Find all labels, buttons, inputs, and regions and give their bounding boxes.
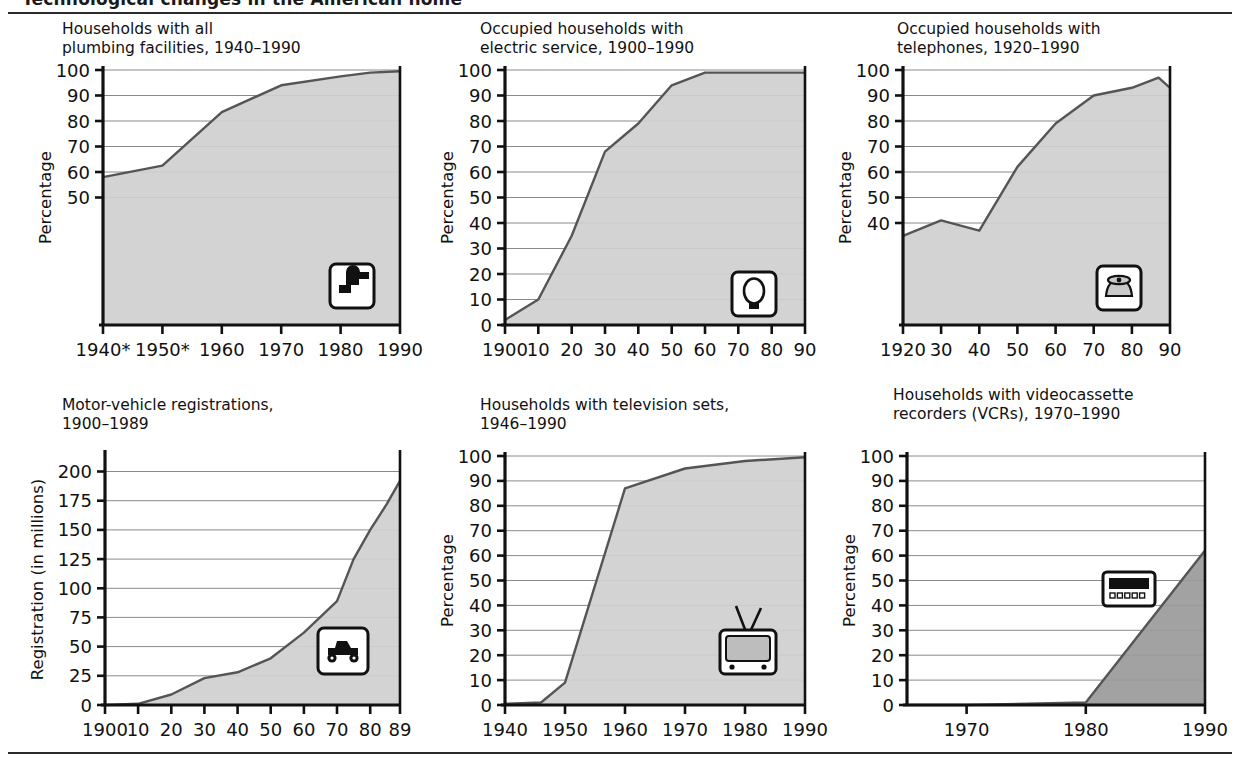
x-tick-label: 1970 [662, 719, 708, 740]
chart-panel-vcr: Households with videocassette recorders … [835, 382, 1240, 752]
x-tick-label: 1970 [944, 719, 990, 740]
x-tick-label: 80 [359, 719, 382, 740]
y-tick-label: 50 [867, 187, 890, 208]
x-tick-label: 40 [968, 339, 991, 360]
y-tick-label: 175 [58, 490, 92, 511]
x-tick-label: 30 [594, 339, 617, 360]
x-tick-label: 40 [627, 339, 650, 360]
y-axis-title: Percentage [438, 151, 457, 244]
x-tick-label: 30 [193, 719, 216, 740]
x-tick-label: 20 [560, 339, 583, 360]
x-tick-label: 70 [727, 339, 750, 360]
x-tick-label: 40 [226, 719, 249, 740]
x-tick-label: 30 [930, 339, 953, 360]
y-tick-label: 70 [67, 136, 90, 157]
y-tick-label: 80 [469, 111, 492, 132]
x-tick-label: 10 [127, 719, 150, 740]
figure-page: Technological changes in the American ho… [0, 0, 1240, 773]
chart-svg-plumbing: 50607080901001940*1950*1960197019801990P… [0, 14, 420, 382]
chart-panel-electric: Occupied households with electric servic… [420, 14, 835, 382]
y-tick-label: 90 [469, 470, 492, 491]
y-tick-label: 40 [867, 213, 890, 234]
y-tick-label: 80 [67, 111, 90, 132]
x-tick-label: 1970 [258, 339, 304, 360]
y-tick-label: 30 [469, 238, 492, 259]
y-tick-label: 70 [867, 136, 890, 157]
x-tick-label: 20 [160, 719, 183, 740]
telephone-icon [1097, 266, 1141, 310]
y-tick-label: 100 [458, 60, 492, 81]
y-tick-label: 10 [469, 670, 492, 691]
x-tick-label: 10 [527, 339, 550, 360]
y-tick-label: 60 [469, 162, 492, 183]
y-tick-label: 60 [67, 162, 90, 183]
y-tick-label: 50 [69, 636, 92, 657]
y-tick-label: 60 [469, 545, 492, 566]
y-tick-label: 80 [469, 495, 492, 516]
x-tick-label: 90 [1159, 339, 1182, 360]
x-tick-label: 1900 [482, 339, 528, 360]
x-tick-label: 1920 [880, 339, 926, 360]
x-tick-label: 50 [259, 719, 282, 740]
x-tick-label: 1980 [722, 719, 768, 740]
x-tick-label: 1990 [377, 339, 423, 360]
y-tick-label: 90 [867, 85, 890, 106]
y-tick-label: 70 [469, 136, 492, 157]
y-tick-label: 90 [871, 470, 894, 491]
vcr-icon [1103, 572, 1155, 606]
chart-panel-television: Households with television sets, 1946–19… [420, 382, 835, 752]
y-tick-label: 0 [481, 315, 492, 336]
x-tick-label: 80 [1120, 339, 1143, 360]
x-tick-label: 1900 [82, 719, 128, 740]
y-tick-label: 50 [67, 187, 90, 208]
y-tick-label: 20 [469, 645, 492, 666]
y-tick-label: 40 [871, 595, 894, 616]
y-tick-label: 100 [56, 60, 90, 81]
y-tick-label: 50 [469, 570, 492, 591]
y-tick-label: 40 [469, 595, 492, 616]
automobile-icon [318, 628, 368, 674]
y-tick-label: 60 [871, 545, 894, 566]
y-tick-label: 90 [67, 85, 90, 106]
y-tick-label: 40 [469, 213, 492, 234]
chart-panel-plumbing: Households with all plumbing facilities,… [0, 14, 420, 382]
x-tick-label: 1960 [602, 719, 648, 740]
chart-svg-electric: 0102030405060708090100190010203040506070… [420, 14, 835, 382]
x-tick-label: 60 [1044, 339, 1067, 360]
x-tick-label: 1980 [318, 339, 364, 360]
chart-panel-telephones: Occupied households with telephones, 192… [835, 14, 1240, 382]
x-tick-label: 1940* [76, 339, 131, 360]
lightbulb-icon [732, 272, 776, 316]
y-tick-label: 150 [58, 519, 92, 540]
y-axis-title: Percentage [438, 534, 457, 627]
x-tick-label: 1960 [199, 339, 245, 360]
y-tick-label: 60 [867, 162, 890, 183]
y-tick-label: 50 [469, 187, 492, 208]
chart-svg-telephones: 405060708090100192030405060708090Percent… [835, 14, 1240, 382]
x-tick-label: 1950* [135, 339, 190, 360]
faucet-icon [330, 264, 374, 308]
y-tick-label: 100 [58, 578, 92, 599]
y-tick-label: 75 [69, 607, 92, 628]
y-tick-label: 125 [58, 549, 92, 570]
x-tick-label: 70 [1082, 339, 1105, 360]
chart-svg-vcr: 0102030405060708090100197019801990Percen… [835, 382, 1240, 752]
y-axis-title: Percentage [840, 534, 859, 627]
y-tick-label: 10 [871, 670, 894, 691]
chart-grid: Households with all plumbing facilities,… [0, 14, 1240, 752]
x-tick-label: 1950 [542, 719, 588, 740]
y-axis-title: Percentage [36, 151, 55, 244]
x-tick-label: 80 [760, 339, 783, 360]
y-tick-label: 100 [860, 446, 894, 467]
y-tick-label: 0 [883, 695, 894, 716]
x-tick-label: 70 [326, 719, 349, 740]
y-tick-label: 20 [469, 264, 492, 285]
clipped-page-heading: Technological changes in the American ho… [22, 0, 462, 9]
y-tick-label: 10 [469, 289, 492, 310]
x-tick-label: 50 [1006, 339, 1029, 360]
x-tick-label: 60 [694, 339, 717, 360]
x-tick-label: 1990 [1182, 719, 1228, 740]
chart-svg-motor: 0255075100125150175200190010203040506070… [0, 382, 420, 752]
y-tick-label: 200 [58, 461, 92, 482]
x-tick-label: 1990 [782, 719, 828, 740]
